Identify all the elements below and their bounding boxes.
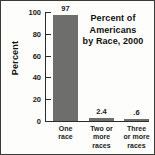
x-category-label-three-or-more-races-line-2: or more — [120, 133, 153, 141]
y-tick-label-100: 100 — [15, 9, 41, 16]
bar-one-race — [53, 15, 78, 121]
x-category-label-three-or-more-races-line-1: Three — [120, 125, 153, 133]
x-category-label-two-or-more-races-line-1: Two or — [85, 125, 118, 133]
y-tick-label-60: 60 — [15, 53, 41, 60]
x-category-label-three-or-more-races-line-3: races — [120, 142, 153, 150]
bar-value-three-or-more-races: .6 — [124, 109, 149, 117]
y-tick-mark-100 — [46, 12, 51, 13]
y-tick-label-80: 80 — [15, 31, 41, 38]
chart-title-line-2: Americans — [75, 25, 151, 37]
x-category-label-one-race-line-1: One — [49, 125, 82, 133]
y-axis-line — [45, 12, 46, 121]
x-axis-line — [45, 121, 149, 122]
y-tick-mark-60 — [46, 56, 51, 57]
x-category-label-three-or-more-races: Three or more races — [120, 125, 153, 150]
chart-title-line-3: by Race, 2000 — [75, 36, 151, 48]
bar-value-two-or-more-races: 2.4 — [89, 108, 114, 116]
y-tick-mark-40 — [46, 77, 51, 78]
percent-of-americans-by-race-bar-chart: Percent of Americans by Race, 2000 Perce… — [0, 0, 155, 155]
x-category-label-one-race: One race — [49, 125, 82, 142]
x-category-label-two-or-more-races-line-3: races — [85, 142, 118, 150]
x-category-label-one-race-line-2: race — [49, 133, 82, 141]
x-category-label-two-or-more-races-line-2: more — [85, 133, 118, 141]
chart-title-line-1: Percent of — [75, 13, 151, 25]
y-tick-mark-80 — [46, 34, 51, 35]
y-tick-mark-20 — [46, 99, 51, 100]
chart-title: Percent of Americans by Race, 2000 — [75, 13, 151, 48]
y-tick-label-20: 20 — [15, 96, 41, 103]
bar-value-one-race: 97 — [53, 5, 78, 13]
x-category-label-two-or-more-races: Two or more races — [85, 125, 118, 150]
y-tick-label-40: 40 — [15, 74, 41, 81]
y-tick-label-0: 0 — [15, 118, 41, 125]
